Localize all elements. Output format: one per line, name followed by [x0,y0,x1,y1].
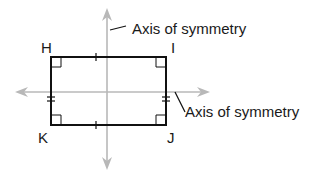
horizontal-axis [15,87,210,97]
rectangle-symmetry-diagram: H I J K Axis of symmetry Axis of symmetr… [0,0,316,173]
vertical-axis [102,8,112,170]
axis-label-vertical: Axis of symmetry [132,20,247,37]
right-angle-h-icon [51,57,61,67]
right-angle-j-icon [156,115,166,125]
vertex-label-h: H [41,39,52,56]
vertex-label-i: I [171,39,175,56]
right-angle-i-icon [156,57,166,67]
rectangle-hijk [51,57,166,125]
tick-marks [47,53,170,129]
vertex-label-j: J [167,129,175,146]
leader-line-top [110,26,126,30]
vertex-label-k: K [38,129,48,146]
leader-line-right [175,92,185,112]
right-angle-k-icon [51,115,61,125]
axis-label-horizontal: Axis of symmetry [185,103,300,120]
right-angle-markers [51,57,166,125]
